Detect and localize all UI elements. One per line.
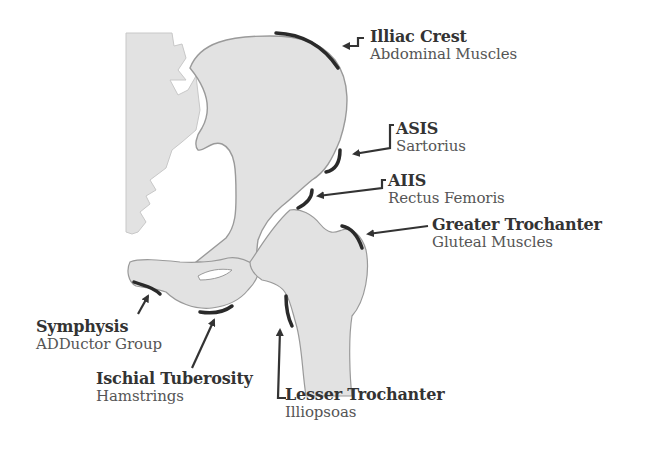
label-lesser-trochanter: Lesser Trochanter Illiopsoas — [285, 386, 444, 422]
label-ischial-tuberosity: Ischial Tuberosity Hamstrings — [96, 370, 253, 406]
label-muscle: Illiopsoas — [285, 404, 444, 421]
symphysis-arrow — [138, 296, 148, 314]
label-muscle: Sartorius — [396, 138, 466, 155]
femur-shape — [250, 210, 367, 396]
greater-trochanter-arrow — [368, 226, 428, 234]
label-muscle: Rectus Femoris — [388, 190, 505, 207]
label-muscle: Abdominal Muscles — [370, 46, 517, 63]
label-title: Lesser Trochanter — [285, 386, 444, 404]
label-title: Greater Trochanter — [432, 216, 602, 234]
label-muscle: Hamstrings — [96, 388, 253, 405]
label-illiac-crest: Illiac Crest Abdominal Muscles — [370, 28, 517, 64]
label-greater-trochanter: Greater Trochanter Gluteal Muscles — [432, 216, 602, 252]
label-muscle: ADDuctor Group — [36, 336, 162, 353]
asis-arrow — [354, 125, 394, 154]
label-aiis: AIIS Rectus Femoris — [388, 172, 505, 208]
ischial-tuberosity-arrow — [192, 320, 214, 368]
label-title: AIIS — [388, 172, 505, 190]
label-title: ASIS — [396, 120, 466, 138]
label-title: Symphysis — [36, 318, 162, 336]
illiac-crest-arrow — [344, 38, 364, 46]
label-asis: ASIS Sartorius — [396, 120, 466, 156]
aiis-arrow — [318, 180, 386, 196]
pubis-ischium-shape — [128, 258, 258, 309]
hip-muscle-attachment-diagram: Illiac Crest Abdominal Muscles ASIS Sart… — [0, 0, 648, 455]
label-symphysis: Symphysis ADDuctor Group — [36, 318, 162, 354]
label-title: Ischial Tuberosity — [96, 370, 253, 388]
aiis-marker — [298, 190, 312, 208]
sacrum-shape — [126, 33, 200, 234]
label-muscle: Gluteal Muscles — [432, 234, 602, 251]
label-title: Illiac Crest — [370, 28, 517, 46]
